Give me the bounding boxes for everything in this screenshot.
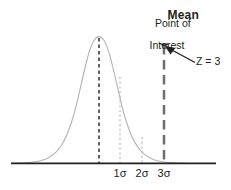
point-of-interest-label: Point of Interest <box>136 7 198 73</box>
z-value-annotation: Z = 3 <box>196 56 220 67</box>
normal-distribution-figure: Mean Point of Interest Z = 3 1σ 2σ 3σ <box>0 0 231 190</box>
point-of-interest-label-line2: Interest <box>136 40 198 51</box>
axis-tick-label-3-sigma: 3σ <box>152 167 176 179</box>
axis-tick-label-2-sigma: 2σ <box>130 167 154 179</box>
axis-tick-label-1-sigma: 1σ <box>108 167 132 179</box>
point-of-interest-label-line1: Point of <box>155 17 191 29</box>
